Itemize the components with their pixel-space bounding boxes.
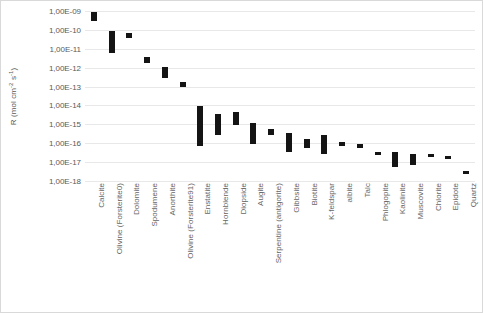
y-axis-tick-label: 1,00E-15 [49,120,81,129]
x-axis-tick-labels: CalciteOlivine (Forsterite0)DolomiteSpod… [85,183,475,311]
bar [197,106,203,146]
plot-area [85,11,475,181]
bar [233,112,239,125]
bar [445,156,451,160]
y-axis-title: R (mol cm-2 s-1) [7,1,21,191]
x-axis-tick-label: Biotite [310,183,319,206]
x-axis-tick-label: Diopside [239,183,248,215]
x-axis-tick-label: Olivine (Forsterite0) [115,183,124,254]
bar [321,135,327,154]
bars-layer [85,11,475,181]
x-axis-tick-label: Spodumene [150,183,159,227]
bar [268,129,274,135]
x-axis-tick-label: Phlogopite [381,183,390,221]
bar [357,144,363,148]
bar [463,171,469,175]
y-axis-tick-labels: 1,00E-091,00E-101,00E-111,00E-121,00E-13… [23,11,81,181]
x-axis-tick-label: Dolomite [132,183,141,215]
x-axis-tick-label: Calcite [97,183,106,208]
bar [286,133,292,152]
bar [91,12,97,21]
y-axis-tick-label: 1,00E-09 [49,7,81,16]
y-axis-tick-label: 1,00E-17 [49,158,81,167]
mineral-dissolution-rate-chart: R (mol cm-2 s-1) 1,00E-091,00E-101,00E-1… [0,0,483,313]
x-axis-tick-label: Serpentine (antigorite) [274,183,283,263]
y-axis-tick-label: 1,00E-13 [49,82,81,91]
x-axis-tick-label: Hornblende [221,183,230,225]
y-axis-title-text: R (mol cm-2 s-1) [10,67,19,125]
x-axis-tick-label: Olivine (Forsterite91) [186,183,195,259]
bar [250,123,256,144]
y-axis-tick-label: 1,00E-11 [50,44,81,53]
x-axis-tick-label: Kaolinite [398,183,407,214]
x-axis-tick-label: K-feldspar [327,183,336,220]
bar [392,152,398,167]
y-axis-tick-label: 1,00E-16 [49,139,81,148]
bar [428,154,434,158]
bar [144,57,150,63]
bar [375,152,381,156]
x-axis-tick-label: Talc [363,183,372,197]
bar [215,114,221,135]
y-axis-tick-label: 1,00E-18 [49,177,81,186]
y-axis-tick-label: 1,00E-12 [49,63,81,72]
x-axis-tick-label: Anorthite [168,183,177,215]
x-axis-tick-label: albite [345,183,354,202]
x-axis-tick-label: Chlorite [434,183,443,211]
bar [304,139,310,148]
x-axis-tick-label: Epidote [451,183,460,210]
bar [410,154,416,165]
bar [109,31,115,54]
bar [339,142,345,146]
gridline [85,181,475,182]
x-axis-tick-label: Augite [256,183,265,206]
x-axis-tick-label: Muscovite [416,183,425,219]
bar [180,82,186,88]
x-axis-tick-label: Quartz [469,183,478,207]
y-axis-tick-label: 1,00E-10 [49,25,81,34]
x-axis-tick-label: Gibbsite [292,183,301,213]
x-axis-tick-label: Enstatite [203,183,212,215]
y-axis-tick-label: 1,00E-14 [49,101,81,110]
bar [126,33,132,39]
bar [162,67,168,78]
